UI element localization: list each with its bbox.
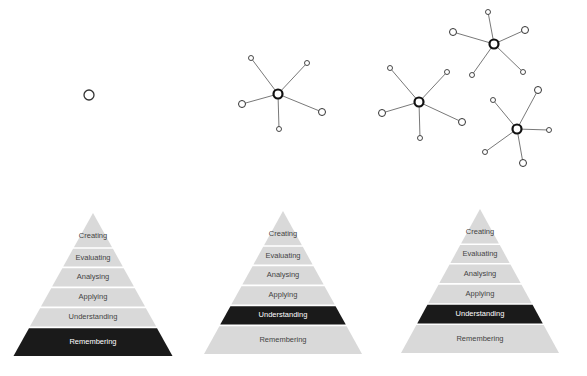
leaf-node [483, 150, 488, 155]
leaf-node [249, 56, 254, 61]
single-node [84, 90, 94, 100]
pyramid-label: Creating [466, 227, 494, 236]
leaf-node [445, 70, 450, 75]
leaf-node [520, 160, 527, 167]
leaf-node [388, 66, 393, 71]
hub-node [415, 98, 424, 107]
pyramid-3: CreatingEvaluatingAnalysingApplyingUnder… [401, 209, 559, 353]
pyramid-label: Understanding [456, 309, 505, 318]
pyramid-label: Creating [269, 229, 297, 238]
leaf-node [239, 101, 246, 108]
pyramid-label: Evaluating [462, 249, 497, 258]
pyramid-label: Analysing [77, 272, 110, 281]
leaf-node [486, 10, 491, 15]
network-panel-3 [379, 10, 552, 167]
pyramid-label: Remembering [69, 337, 116, 346]
pyramid-band-creating [461, 209, 499, 243]
pyramid-label: Analysing [464, 269, 497, 278]
pyramid-label: Remembering [456, 334, 503, 343]
leaf-node [418, 136, 423, 141]
leaf-node [547, 128, 552, 133]
leaf-node [379, 110, 386, 117]
leaf-node [491, 98, 496, 103]
pyramid-band-creating [74, 213, 112, 247]
leaf-node [277, 127, 282, 132]
leaf-node [319, 109, 326, 116]
pyramid-label: Understanding [69, 312, 118, 321]
network-panel-2 [239, 56, 326, 132]
pyramid-band-creating [264, 211, 302, 245]
network-panel-1 [84, 90, 94, 100]
pyramid-label: Understanding [259, 310, 308, 319]
pyramid-label: Evaluating [75, 253, 110, 262]
leaf-node [522, 27, 529, 34]
pyramid-label: Remembering [259, 335, 306, 344]
hub-node [513, 125, 522, 134]
pyramid-label: Creating [79, 231, 107, 240]
pyramid-label: Applying [466, 289, 495, 298]
hub-node [490, 40, 499, 49]
leaf-node [535, 87, 542, 94]
leaf-node [450, 29, 457, 36]
pyramid-label: Evaluating [265, 251, 300, 260]
leaf-node [305, 61, 310, 66]
pyramid-label: Analysing [267, 270, 300, 279]
pyramid-label: Applying [269, 290, 298, 299]
pyramids-group: CreatingEvaluatingAnalysingApplyingUnder… [14, 209, 560, 356]
pyramid-label: Applying [79, 292, 108, 301]
leaf-node [470, 73, 475, 78]
hub-node [274, 90, 283, 99]
leaf-node [521, 70, 526, 75]
diagram-canvas: CreatingEvaluatingAnalysingApplyingUnder… [0, 0, 587, 376]
leaf-node [459, 119, 466, 126]
pyramid-1: CreatingEvaluatingAnalysingApplyingUnder… [14, 213, 173, 356]
pyramid-2: CreatingEvaluatingAnalysingApplyingUnder… [204, 211, 362, 354]
